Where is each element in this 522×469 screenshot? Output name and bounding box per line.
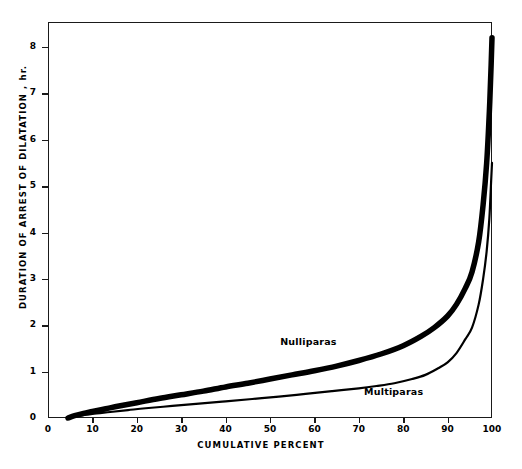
x-tick-label: 10 (72, 425, 112, 434)
y-tick-label: 3 (14, 274, 36, 283)
x-tick-mark (181, 418, 182, 423)
x-tick-mark (92, 418, 93, 423)
x-tick-label: 20 (117, 425, 157, 434)
y-tick-label: 8 (14, 42, 36, 51)
y-tick-label: 6 (14, 135, 36, 144)
x-tick-label: 70 (339, 425, 379, 434)
y-tick-label: 2 (14, 320, 36, 329)
x-tick-mark (226, 418, 227, 423)
x-tick-mark (403, 418, 404, 423)
x-tick-mark (359, 418, 360, 423)
x-tick-mark (448, 418, 449, 423)
y-tick-label: 0 (14, 413, 36, 422)
y-tick-label: 7 (14, 88, 36, 97)
x-tick-mark (314, 418, 315, 423)
y-tick-label: 1 (14, 367, 36, 376)
x-tick-label: 0 (28, 425, 68, 434)
x-tick-label: 50 (250, 425, 290, 434)
x-tick-mark (137, 418, 138, 423)
x-tick-label: 30 (161, 425, 201, 434)
x-tick-label: 100 (472, 425, 512, 434)
x-tick-label: 90 (428, 425, 468, 434)
series-label-multiparas: Multiparas (364, 386, 423, 397)
x-tick-label: 40 (206, 425, 246, 434)
y-tick-label: 5 (14, 181, 36, 190)
y-tick-label: 4 (14, 228, 36, 237)
x-tick-label: 80 (383, 425, 423, 434)
chart-figure: DURATION OF ARREST OF DILATATION , hr. C… (0, 0, 522, 469)
plot-area (48, 22, 492, 418)
x-tick-label: 60 (294, 425, 334, 434)
x-axis-title: CUMULATIVE PERCENT (0, 440, 522, 450)
series-label-nulliparas: Nulliparas (280, 336, 336, 347)
x-tick-mark (270, 418, 271, 423)
